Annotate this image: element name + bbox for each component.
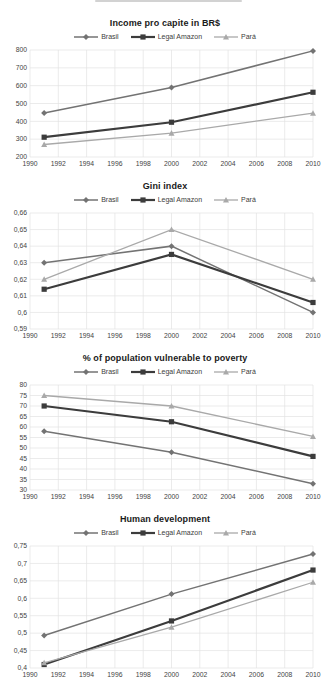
- y-tick-label: 300: [16, 135, 28, 142]
- x-tick-label: 2002: [192, 160, 207, 167]
- y-tick-label: 500: [16, 100, 28, 107]
- x-tick-label: 1996: [107, 671, 122, 678]
- x-tick-label: 1998: [136, 332, 151, 339]
- diamond-marker-icon: [169, 243, 175, 249]
- diamond-marker-icon: [83, 530, 89, 536]
- square-marker-icon: [42, 403, 47, 408]
- x-tick-label: 1992: [51, 493, 66, 500]
- y-tick-label: 0,6: [18, 309, 28, 316]
- y-tick-label: 65: [19, 413, 27, 420]
- y-tick-label: 0,4: [18, 664, 28, 671]
- legend-item: Legal Amazon: [131, 529, 202, 537]
- legend-label: Legal Amazon: [158, 196, 202, 203]
- legend-label: Brasil: [101, 529, 119, 536]
- triangle-marker-icon: [310, 579, 316, 585]
- x-tick-label: 2000: [164, 493, 179, 500]
- x-tick-label: 1990: [22, 671, 37, 678]
- diamond-marker-icon: [83, 197, 89, 203]
- legend-key-icon: [214, 368, 238, 376]
- chart-income-pro-capite: Income pro capite in BR$ BrasilLegal Ama…: [0, 0, 330, 172]
- legend-item: Brasil: [74, 196, 119, 204]
- series-brasil: [41, 428, 316, 487]
- legend-key-icon: [74, 368, 98, 376]
- legend-item: Legal Amazon: [131, 33, 202, 41]
- diamond-marker-icon: [310, 481, 316, 487]
- legend-key-icon: [214, 529, 238, 537]
- x-tick-label: 2010: [305, 332, 320, 339]
- legend-item: Brasil: [74, 33, 119, 41]
- series-line: [44, 406, 313, 456]
- x-tick-label: 2006: [249, 671, 264, 678]
- diamond-marker-icon: [83, 34, 89, 40]
- x-tick-label: 1992: [51, 332, 66, 339]
- y-tick-label: 50: [19, 444, 27, 451]
- y-tick-label: 45: [19, 455, 27, 462]
- chart-title: % of population vulnerable to poverty: [0, 353, 330, 363]
- y-tick-label: 0,63: [14, 259, 27, 266]
- x-tick-label: 1996: [107, 160, 122, 167]
- diamond-marker-icon: [310, 551, 316, 557]
- chart-legend: BrasilLegal AmazonPará: [0, 528, 330, 537]
- x-tick-label: 2010: [305, 160, 320, 167]
- gridlines: [30, 546, 313, 668]
- y-tick-label: 0,6: [18, 595, 28, 602]
- x-tick-label: 2010: [305, 493, 320, 500]
- x-tick-label: 2006: [249, 332, 264, 339]
- chart-gini-index: Gini index BrasilLegal AmazonPará 199019…: [0, 181, 330, 344]
- square-marker-icon: [140, 530, 145, 535]
- legend-item: Brasil: [74, 529, 119, 537]
- legend-label: Pará: [241, 33, 256, 40]
- x-tick-label: 2008: [277, 160, 292, 167]
- legend-key-icon: [131, 196, 155, 204]
- x-tick-label: 1996: [107, 332, 122, 339]
- x-tick-label: 2006: [249, 493, 264, 500]
- series-legal-amazon: [42, 403, 316, 459]
- chart-title: Gini index: [0, 181, 330, 191]
- y-tick-label: 60: [19, 423, 27, 430]
- x-tick-label: 2008: [277, 332, 292, 339]
- y-tick-label: 700: [16, 64, 28, 71]
- y-tick-label: 0,61: [14, 292, 27, 299]
- square-marker-icon: [310, 300, 315, 305]
- chart-plot: 1990199219941996199820002002200420062008…: [0, 207, 330, 344]
- x-tick-label: 2008: [277, 671, 292, 678]
- x-tick-label: 1998: [136, 671, 151, 678]
- chart-vulnerable-to-poverty: % of population vulnerable to poverty Br…: [0, 353, 330, 505]
- y-tick-label: 200: [16, 153, 28, 160]
- chart-plot: 1990199219941996199820002002200420062008…: [0, 379, 330, 505]
- legend-item: Pará: [214, 529, 256, 537]
- y-tick-label: 55: [19, 434, 27, 441]
- legend-label: Legal Amazon: [158, 529, 202, 536]
- cropped-element-remnant: [95, 0, 242, 2]
- legend-key-icon: [74, 33, 98, 41]
- x-tick-label: 2004: [221, 332, 236, 339]
- square-marker-icon: [140, 369, 145, 374]
- x-tick-label: 1992: [51, 160, 66, 167]
- x-tick-label: 1998: [136, 493, 151, 500]
- chart-legend: BrasilLegal AmazonPará: [0, 367, 330, 376]
- legend-label: Legal Amazon: [158, 33, 202, 40]
- legend-key-icon: [74, 529, 98, 537]
- series-line: [44, 254, 313, 302]
- y-tick-label: 0,5: [18, 629, 28, 636]
- x-tick-label: 1994: [79, 160, 94, 167]
- series-line: [44, 113, 313, 144]
- x-tick-label: 1998: [136, 160, 151, 167]
- square-marker-icon: [310, 454, 315, 459]
- series-line: [44, 431, 313, 484]
- legend-item: Legal Amazon: [131, 196, 202, 204]
- square-marker-icon: [169, 120, 174, 125]
- x-tick-label: 1990: [22, 160, 37, 167]
- x-tick-label: 2004: [221, 671, 236, 678]
- x-tick-label: 2010: [305, 671, 320, 678]
- series-pará: [41, 393, 316, 440]
- chart-legend: BrasilLegal AmazonPará: [0, 195, 330, 204]
- legend-key-icon: [74, 196, 98, 204]
- chart-human-development: Human development BrasilLegal AmazonPará…: [0, 514, 330, 681]
- legend-label: Brasil: [101, 368, 119, 375]
- y-tick-label: 800: [16, 46, 28, 53]
- series-line: [44, 230, 313, 280]
- legend-key-icon: [131, 529, 155, 537]
- legend-item: Pará: [214, 368, 256, 376]
- diamond-marker-icon: [41, 260, 47, 266]
